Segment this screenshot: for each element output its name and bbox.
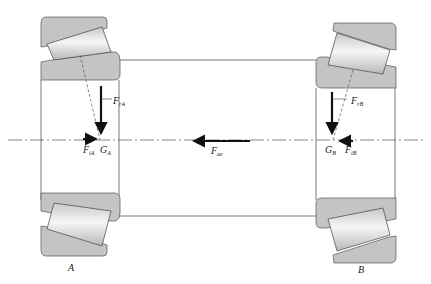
label-fiB: FiB — [344, 144, 357, 156]
label-frA: FrA — [112, 95, 125, 107]
bearing-b-bottom — [316, 198, 396, 263]
label-fae: Fae — [210, 145, 223, 157]
bearing-b-top — [316, 23, 396, 88]
label-bearing-b: B — [358, 264, 364, 275]
label-gB: GB — [325, 144, 336, 156]
bearing-diagram: FrA FiA GA FrB GB FiB Fae A B — [0, 0, 431, 284]
label-fiA: FiA — [82, 144, 95, 156]
label-bearing-a: A — [67, 262, 75, 273]
bearing-a-bottom — [41, 193, 120, 256]
label-frB: FrB — [350, 95, 363, 107]
label-gA: GA — [100, 144, 111, 156]
bearing-a-top — [41, 17, 120, 80]
